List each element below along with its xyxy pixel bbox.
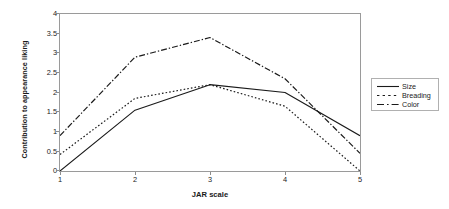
- x-tick-mark: [210, 172, 211, 175]
- legend-label-breading: Breading: [402, 91, 431, 100]
- x-tick-label: 5: [350, 176, 370, 183]
- x-tick-mark: [60, 172, 61, 175]
- x-tick-mark: [360, 172, 361, 175]
- y-tick-label: 3: [27, 49, 57, 56]
- x-axis-title: JAR scale: [59, 190, 361, 199]
- y-tick-label: 2: [27, 89, 57, 96]
- legend-key-dashdot-icon: [376, 100, 400, 109]
- series-line-color: [60, 38, 360, 154]
- x-tick-label: 2: [125, 176, 145, 183]
- y-tick-label: 4: [27, 10, 57, 17]
- legend-label-size: Size: [402, 82, 416, 91]
- y-tick-label: 2.5: [27, 69, 57, 76]
- legend-item-color: Color: [376, 100, 435, 109]
- x-tick-label: 1: [50, 176, 70, 183]
- y-tick-label: 1.5: [27, 108, 57, 115]
- legend-key-dotted-icon: [376, 91, 400, 100]
- legend: Size Breading Color: [371, 78, 439, 111]
- plot-area: [59, 13, 361, 172]
- series-line-breading: [60, 85, 360, 171]
- legend-item-breading: Breading: [376, 91, 435, 100]
- legend-key-solid-icon: [376, 82, 400, 91]
- legend-item-size: Size: [376, 82, 435, 91]
- line-chart-figure: Contribution to appearance liking 4 3.5 …: [0, 0, 449, 209]
- legend-label-color: Color: [402, 100, 419, 109]
- y-tick-label: 3.5: [27, 30, 57, 37]
- y-tick-label: 1: [27, 128, 57, 135]
- x-tick-label: 4: [275, 176, 295, 183]
- x-tick-label: 3: [200, 176, 220, 183]
- x-tick-mark: [135, 172, 136, 175]
- y-tick-label: 0.5: [27, 148, 57, 155]
- series-line-size: [60, 85, 360, 171]
- y-tick-label: 0: [27, 167, 57, 174]
- series-canvas: [60, 14, 360, 171]
- x-tick-mark: [285, 172, 286, 175]
